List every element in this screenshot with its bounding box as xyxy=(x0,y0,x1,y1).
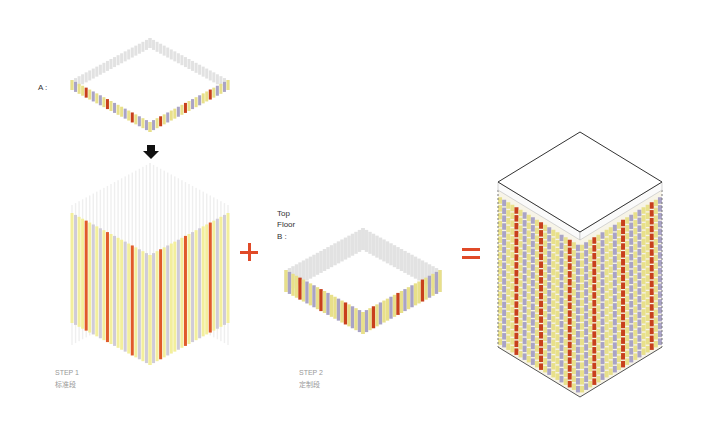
diagram-canvas xyxy=(0,0,701,427)
equals-operator xyxy=(462,248,480,260)
plus-operator xyxy=(240,243,258,261)
down-arrow-icon xyxy=(143,145,159,159)
